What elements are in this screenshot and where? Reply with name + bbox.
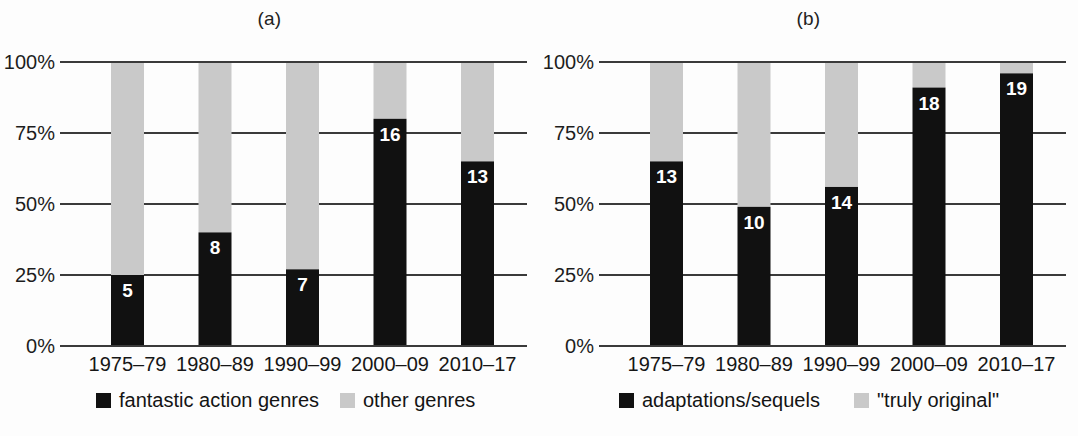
x-axis-category-label: 2000–09 xyxy=(351,353,429,375)
bar-segment-secondary xyxy=(913,62,946,88)
legend-swatch xyxy=(854,393,869,408)
y-axis-tick-label: 50% xyxy=(15,193,55,215)
bar-value-label: 14 xyxy=(831,192,853,213)
x-axis-category-label: 1975–79 xyxy=(89,353,167,375)
bar-segment-secondary xyxy=(111,62,144,275)
y-axis-tick-label: 0% xyxy=(565,335,594,357)
x-axis-category-label: 1990–99 xyxy=(264,353,342,375)
bar-value-label: 16 xyxy=(379,124,400,145)
x-axis-category-label: 1980–89 xyxy=(715,353,793,375)
y-axis-tick-label: 100% xyxy=(4,51,55,73)
bar-value-label: 13 xyxy=(467,166,488,187)
y-axis-tick-label: 0% xyxy=(26,335,55,357)
y-axis-tick-label: 75% xyxy=(15,122,55,144)
bar-segment-secondary xyxy=(825,62,858,187)
x-axis-category-label: 1980–89 xyxy=(176,353,254,375)
legend-swatch xyxy=(619,393,634,408)
x-axis-category-label: 2000–09 xyxy=(890,353,968,375)
bar-segment-primary xyxy=(650,161,683,346)
legend-swatch xyxy=(96,393,111,408)
y-axis-tick-label: 100% xyxy=(543,51,594,73)
bar-segment-primary xyxy=(374,119,407,346)
legend-label: fantastic action genres xyxy=(119,389,319,411)
bar-value-label: 18 xyxy=(918,93,939,114)
bar-value-label: 19 xyxy=(1006,78,1027,99)
bar-segment-secondary xyxy=(199,62,232,232)
legend-swatch xyxy=(340,393,355,408)
figure-container: (a) 0%25%50%75%100%51975–7981980–8971990… xyxy=(0,0,1078,436)
bar-value-label: 7 xyxy=(297,274,308,295)
y-axis-tick-label: 75% xyxy=(554,122,594,144)
x-axis-category-label: 2010–17 xyxy=(978,353,1056,375)
bar-segment-primary xyxy=(913,88,946,346)
chart-panel-a: (a) 0%25%50%75%100%51975–7981980–8971990… xyxy=(0,0,539,436)
x-axis-category-label: 2010–17 xyxy=(439,353,517,375)
x-axis-category-label: 1975–79 xyxy=(628,353,706,375)
panel-b-plot: 0%25%50%75%100%131975–79101980–89141990–… xyxy=(539,0,1078,436)
bar-value-label: 5 xyxy=(122,280,133,301)
bar-segment-secondary xyxy=(374,62,407,119)
x-axis-category-label: 1990–99 xyxy=(803,353,881,375)
bar-value-label: 10 xyxy=(743,212,764,233)
y-axis-tick-label: 25% xyxy=(554,264,594,286)
legend-label: other genres xyxy=(363,389,475,411)
bar-segment-secondary xyxy=(738,62,771,207)
bar-value-label: 8 xyxy=(210,237,221,258)
panel-a-plot: 0%25%50%75%100%51975–7981980–8971990–991… xyxy=(0,0,539,436)
bar-segment-primary xyxy=(1000,73,1033,346)
y-axis-tick-label: 50% xyxy=(554,193,594,215)
bar-segment-primary xyxy=(461,161,494,346)
bar-segment-secondary xyxy=(461,62,494,161)
bar-segment-secondary xyxy=(650,62,683,161)
bar-segment-secondary xyxy=(286,62,319,269)
legend-label: adaptations/sequels xyxy=(642,389,820,411)
y-axis-tick-label: 25% xyxy=(15,264,55,286)
legend-label: "truly original" xyxy=(877,389,999,411)
bar-value-label: 13 xyxy=(656,166,677,187)
bar-segment-secondary xyxy=(1000,62,1033,73)
chart-panel-b: (b) 0%25%50%75%100%131975–79101980–89141… xyxy=(539,0,1078,436)
